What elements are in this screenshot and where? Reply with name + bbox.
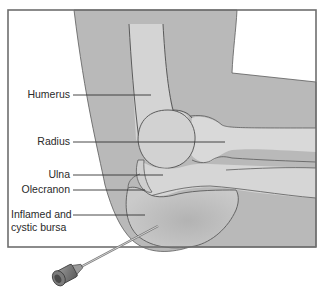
humerus-condyle — [138, 110, 195, 168]
elbow-illustration — [0, 0, 322, 300]
label-ulna: Ulna — [10, 168, 70, 181]
label-olecranon: Olecranon — [10, 183, 70, 196]
label-bursa-line2: cystic bursa — [11, 221, 66, 234]
label-bursa-line1: Inflamed and — [11, 208, 72, 221]
label-radius: Radius — [10, 135, 70, 148]
syringe-hub-icon — [50, 259, 86, 288]
label-humerus: Humerus — [10, 88, 70, 101]
elbow-diagram: Humerus Radius Ulna Olecranon Inflamed a… — [0, 0, 322, 300]
